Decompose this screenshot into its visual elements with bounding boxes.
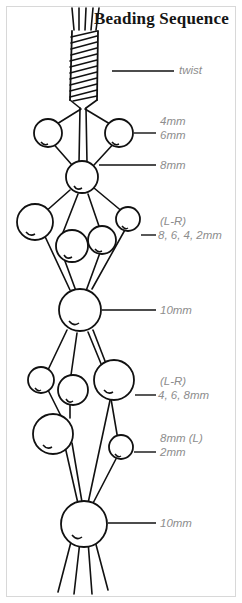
bead-2mm-right <box>109 435 133 459</box>
beading-diagram <box>0 0 242 603</box>
bead-6mm <box>105 119 133 147</box>
bead-2mm-fan <box>116 207 140 231</box>
label-lr-lower: (L-R) <box>160 375 186 387</box>
label-twist: twist <box>179 64 202 76</box>
bead-6mm-lower <box>58 375 88 405</box>
bead-10mm-mid <box>59 289 101 331</box>
twist-cord <box>70 31 98 101</box>
label-seq-8642: 8, 6, 4, 2mm <box>158 229 222 241</box>
bead-4mm-fan <box>88 226 116 254</box>
bead-10mm-bottom <box>61 501 107 547</box>
bead-8mm <box>66 161 98 193</box>
bead-4mm-lower <box>28 367 54 393</box>
label-2mm: 2mm <box>160 446 186 458</box>
label-8mm: 8mm <box>160 159 186 171</box>
label-seq-468: 4, 6, 8mm <box>158 389 209 401</box>
label-10mm-mid: 10mm <box>160 304 192 316</box>
bead-6mm-fan <box>56 230 88 262</box>
bead-8mm-left <box>33 414 73 454</box>
bead-4mm <box>34 119 62 147</box>
label-4mm: 4mm <box>160 115 186 127</box>
label-lr-upper: (L-R) <box>160 215 186 227</box>
label-6mm: 6mm <box>160 129 186 141</box>
label-8mm-l: 8mm (L) <box>160 432 203 444</box>
label-10mm-bottom: 10mm <box>160 517 192 529</box>
bead-8mm-lower <box>94 360 134 400</box>
beading-sequence-page: Beading Sequence twist 4mm 6mm 8mm (L-R)… <box>0 0 242 603</box>
bead-8mm-fan-left <box>17 204 53 240</box>
page-title: Beading Sequence <box>94 9 229 29</box>
